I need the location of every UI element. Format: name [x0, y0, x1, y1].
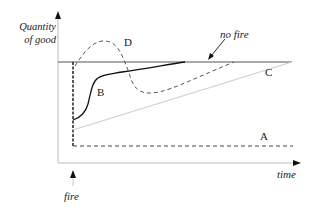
- curve-a-label: A: [260, 130, 268, 142]
- x-axis: [58, 160, 301, 166]
- fire-arrow-icon: [70, 170, 76, 178]
- fire-event-marker: [70, 170, 76, 186]
- fire-recovery-diagram: Quantity of good time fire no fire D B C…: [0, 0, 315, 209]
- curve-b: [73, 62, 185, 120]
- y-axis-label-line1: Quantity: [16, 20, 56, 33]
- y-axis-arrow-icon: [55, 11, 61, 19]
- curve-b-label: B: [97, 86, 104, 98]
- x-axis-arrow-icon: [293, 160, 301, 166]
- y-axis-label: Quantity of good: [16, 20, 56, 46]
- curve-c-label: C: [265, 66, 272, 78]
- x-axis-label: time: [277, 168, 296, 180]
- y-axis-label-line2: of good: [16, 33, 56, 46]
- no-fire-label: no fire: [220, 28, 249, 40]
- curve-c: [73, 62, 292, 130]
- fire-label: fire: [64, 190, 79, 202]
- curve-d-label: D: [124, 36, 132, 48]
